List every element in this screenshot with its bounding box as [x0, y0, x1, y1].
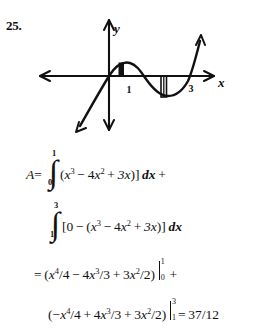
cubic-curve: [76, 35, 205, 132]
line2-term2-coefficient: 4: [114, 219, 121, 234]
line4-term2-coefficient: 4: [94, 307, 101, 322]
solution-line-4: (−x4/4 + 4x3/3 + 3x2/2) 3 1 = 37/12: [48, 308, 219, 322]
line3-equals: =: [34, 267, 42, 282]
line4-equals: =: [178, 307, 186, 322]
strip-above-rect: [119, 63, 124, 76]
line3-term1-denominator: /4: [59, 267, 70, 282]
solution-line-2: 3 ∫ 1 [0 − (x3 − 4x2 + 3x)] dx: [50, 220, 182, 234]
tick-label-one: 1: [127, 84, 132, 95]
line4-operator-2: +: [124, 307, 132, 322]
line3-close-paren: ): [151, 267, 156, 282]
evaluation-bar-2: 3 1: [169, 308, 178, 321]
representative-strip-above-axis: [119, 63, 124, 76]
line1-close-paren: )]: [130, 167, 139, 182]
solution-line-3: = (x4/4 − 4x3/3 + 3x2/2) 1 0 +: [34, 268, 177, 282]
solution-math-block: A= 1 ∫ 0 (x3 − 4x2 + 3x)] dx + 3 ∫ 1 [0 …: [0, 146, 264, 329]
integral-sign-2: 3 ∫ 1: [50, 220, 62, 233]
line4-term1-denominator: /4: [70, 307, 81, 322]
line2-term2-exponent: 2: [127, 219, 131, 228]
line1-term3: 3x: [118, 167, 131, 182]
integral-1-lower-limit: 0: [48, 178, 52, 187]
curve-path: [80, 41, 200, 126]
coordinate-plane-svg: 1 3 x y: [28, 8, 244, 138]
line3-operator-2: +: [113, 267, 121, 282]
line2-operator-2: +: [134, 219, 142, 234]
line4-term3-denominator: /2: [151, 307, 162, 322]
line2-close: )]: [157, 219, 166, 234]
line2-minus: −: [76, 219, 84, 234]
integral-2-lower-limit: 1: [50, 230, 54, 239]
problem-number: 25.: [6, 18, 22, 34]
line4-term2-denominator: /3: [111, 307, 122, 322]
line2-open-bracket-zero: [0: [62, 219, 73, 234]
evaluation-bar-2-upper: 3: [172, 298, 176, 306]
y-axis-label: y: [112, 21, 120, 36]
line3-term3-denominator: /2: [140, 267, 151, 282]
line4-result: 37/12: [188, 307, 219, 322]
line4-leading-minus: −: [53, 307, 61, 322]
line1-equals: =: [34, 167, 42, 182]
line1-operator-1: −: [77, 167, 85, 182]
line2-term1-exponent: 3: [97, 219, 101, 228]
line1-term1-exponent: 3: [70, 167, 74, 176]
line2-term3: 3x: [144, 219, 157, 234]
evaluation-bar-1-rule: [159, 261, 160, 280]
line3-term2-denominator: /3: [100, 267, 111, 282]
line1-term2-exponent: 2: [100, 167, 104, 176]
line3-trailing-plus: +: [169, 267, 177, 282]
evaluation-bar-2-lower: 1: [172, 314, 176, 322]
line2-differential: dx: [168, 219, 182, 234]
line1-differential: dx: [142, 167, 156, 182]
evaluation-bar-1-lower: 0: [161, 274, 165, 282]
line3-term3-coefficient: 3: [123, 267, 130, 282]
line4-operator-1: +: [84, 307, 92, 322]
graph-figure: 1 3 x y: [28, 8, 244, 138]
line3-operator-1: −: [72, 267, 80, 282]
line4-close-paren: ): [162, 307, 167, 322]
line1-operator-2: +: [107, 167, 115, 182]
evaluation-bar-1-upper: 1: [161, 258, 165, 266]
line2-operator-1: −: [104, 219, 112, 234]
x-axis-label: x: [217, 75, 225, 90]
line1-trailing-plus: +: [158, 167, 166, 182]
evaluation-bar-1: 1 0: [158, 268, 167, 281]
line1-lhs: A: [26, 167, 34, 182]
evaluation-bar-2-rule: [170, 301, 171, 320]
tick-label-three: 3: [189, 83, 194, 94]
solution-line-1: A= 1 ∫ 0 (x3 − 4x2 + 3x)] dx +: [26, 168, 166, 182]
integral-sign-1: 1 ∫ 0: [48, 168, 60, 181]
